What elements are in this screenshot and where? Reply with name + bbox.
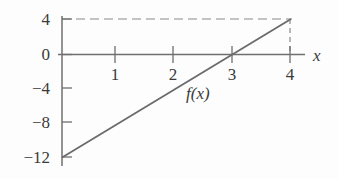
- y-tick-label-minus-12: −12: [0, 149, 50, 166]
- line-chart-plot: [0, 0, 338, 179]
- y-tick-label-minus-4: −4: [6, 80, 50, 97]
- y-tick-label-4: 4: [10, 11, 50, 28]
- x-tick-label-3: 3: [220, 66, 244, 83]
- figure-container: 4 0 −4 −8 −12 1 2 3 4 x f(x): [0, 0, 338, 179]
- x-tick-label-1: 1: [103, 66, 127, 83]
- y-tick-label-0: 0: [10, 46, 50, 63]
- function-line: [62, 19, 291, 158]
- function-label: f(x): [186, 85, 210, 102]
- x-axis-title: x: [313, 47, 321, 64]
- y-tick-label-minus-8: −8: [6, 114, 50, 131]
- x-tick-label-2: 2: [161, 66, 185, 83]
- x-tick-label-4: 4: [278, 66, 302, 83]
